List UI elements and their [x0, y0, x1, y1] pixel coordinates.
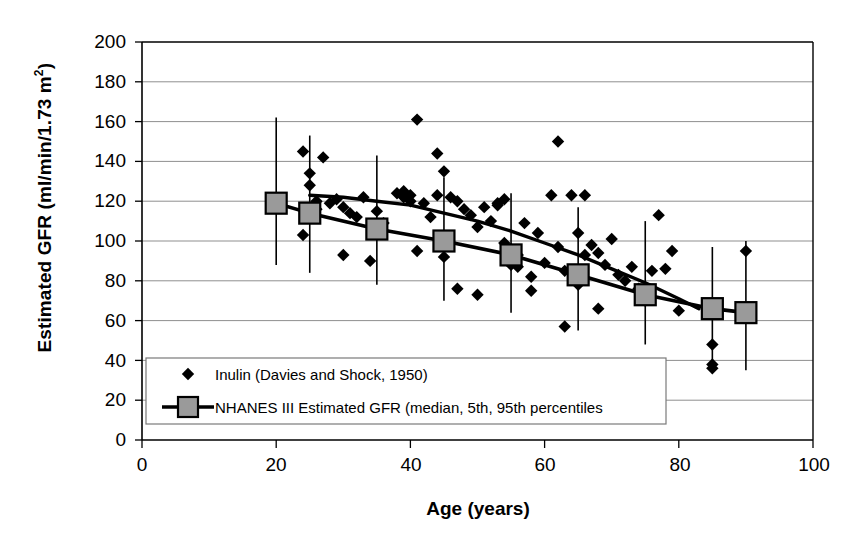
chart-container: Estimated GFR (ml/min/1.73 m2) Age (year… [0, 0, 866, 551]
legend-label-nhanes: NHANES III Estimated GFR (median, 5th, 9… [215, 400, 603, 415]
legend-label-inulin: Inulin (Davies and Shock, 1950) [215, 367, 428, 382]
plot-area [0, 0, 866, 551]
inulin-scatter-points [297, 113, 752, 374]
